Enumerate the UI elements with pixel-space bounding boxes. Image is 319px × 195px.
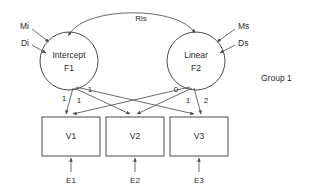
error-term-e3: E3 — [194, 158, 204, 185]
loading-label-f2-v3: 2 — [204, 96, 209, 105]
observed-variable-v2[interactable]: V2 — [106, 117, 164, 156]
observed-label-v1: V1 — [66, 131, 77, 141]
loading-label-f1-v1: 1 — [62, 94, 67, 103]
latent-circle-f1[interactable] — [40, 32, 98, 90]
loading-f2-v2: 1 — [137, 88, 192, 114]
loading-label-f1-v2: 1 — [77, 96, 82, 105]
exogenous-label-di: Di — [21, 38, 29, 48]
observed-label-v3: V3 — [194, 131, 205, 141]
observed-label-v2: V2 — [130, 131, 141, 141]
exogenous-label-ms: Ms — [238, 21, 249, 31]
arrow-icon-f1-v2 — [74, 88, 130, 114]
error-label-e1: E1 — [66, 176, 76, 185]
latent-label-f1-line2: F1 — [64, 63, 74, 73]
group-label: Group 1 — [261, 73, 292, 83]
exogenous-label-ds: Ds — [238, 38, 248, 48]
latent-factor-f1[interactable]: Intercept F1 — [40, 32, 98, 90]
arrow-icon-f2-v3 — [194, 88, 201, 114]
loading-label-f1-v3: 1 — [88, 85, 93, 94]
latent-factor-f2[interactable]: Linear F2 — [167, 32, 225, 90]
observed-variable-v3[interactable]: V3 — [170, 117, 228, 156]
error-term-e1: E1 — [66, 158, 76, 185]
latent-label-f1-line1: Intercept — [52, 50, 86, 60]
loading-f1-v2: 1 — [74, 88, 130, 114]
observed-variable-v1[interactable]: V1 — [42, 117, 100, 156]
sem-path-diagram: Ris Mi Di Ms Ds 1 1 1 — [0, 0, 319, 195]
latent-label-f2-line1: Linear — [184, 50, 208, 60]
arrow-icon-f1-v1 — [66, 88, 73, 114]
covariance-label: Ris — [135, 14, 147, 23]
covariance-curve-icon — [70, 13, 195, 33]
error-label-e3: E3 — [194, 176, 204, 185]
arrow-icon-f2-v2 — [137, 88, 192, 114]
exogenous-label-mi: Mi — [20, 21, 29, 31]
loading-f2-v3: 2 — [194, 88, 209, 114]
error-label-e2: E2 — [130, 176, 140, 185]
arrow-icon-mi — [32, 29, 49, 42]
loading-f1-v1: 1 — [62, 88, 73, 114]
diagram-canvas: Ris Mi Di Ms Ds 1 1 1 — [0, 0, 319, 195]
covariance-ris: Ris — [70, 13, 195, 33]
error-term-e2: E2 — [130, 158, 140, 185]
latent-circle-f2[interactable] — [167, 32, 225, 90]
arrow-icon-ms — [217, 29, 235, 42]
loading-label-f2-v1: 0 — [174, 85, 179, 94]
exogenous-input-ds: Ds — [220, 38, 248, 53]
loading-label-f2-v2: 1 — [186, 96, 191, 105]
latent-label-f2-line2: F2 — [191, 63, 201, 73]
